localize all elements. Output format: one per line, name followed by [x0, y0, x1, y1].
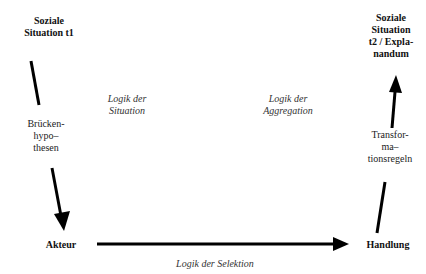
- node-action: Handlung: [358, 239, 418, 251]
- edge-label-line: Brücken-: [20, 118, 72, 130]
- edge-label-line: Situation: [95, 105, 159, 117]
- arrowhead-right-icon: [333, 237, 349, 251]
- arrowhead-up-icon: [389, 75, 402, 93]
- edge-label-line: Logik der: [95, 93, 159, 105]
- node-situation-t2: Soziale Situation t2 / Expla- nandum: [358, 12, 424, 60]
- edge-label-bridge-hypotheses: Brücken- hypo– thesen: [20, 118, 72, 154]
- node-label-line: t2 / Expla-: [358, 36, 424, 48]
- node-situation-t1: Soziale Situation t1: [14, 15, 84, 39]
- edge-label-line: Transfor-: [360, 129, 420, 141]
- edge-label-line: hypo–: [20, 130, 72, 142]
- node-label-line: Soziale: [14, 15, 84, 27]
- node-label-line: Situation t1: [14, 27, 84, 39]
- node-actor: Akteur: [38, 239, 84, 251]
- transformation-line-lower: [377, 182, 385, 233]
- edge-label-line: ma–: [360, 141, 420, 153]
- bridge-arrow-lower: [52, 168, 61, 216]
- edge-label-logic-selection: Logik der Selektion: [150, 258, 280, 270]
- transformation-arrow-upper: [392, 92, 395, 128]
- node-label-line: Soziale: [358, 12, 424, 24]
- arrowhead-down-icon: [54, 211, 70, 231]
- edge-label-logic-situation: Logik der Situation: [95, 93, 159, 117]
- edge-label-line: thesen: [20, 142, 72, 154]
- edge-label-line: Logik der: [253, 93, 323, 105]
- edge-label-transformation-rules: Transfor- ma– tionsregeln: [360, 129, 420, 165]
- edge-label-line: Aggregation: [253, 105, 323, 117]
- edge-label-line: tionsregeln: [360, 153, 420, 165]
- bridge-line-upper: [31, 61, 39, 105]
- edge-label-logic-aggregation: Logik der Aggregation: [253, 93, 323, 117]
- node-label-line: nandum: [358, 48, 424, 60]
- node-label-line: Situation: [358, 24, 424, 36]
